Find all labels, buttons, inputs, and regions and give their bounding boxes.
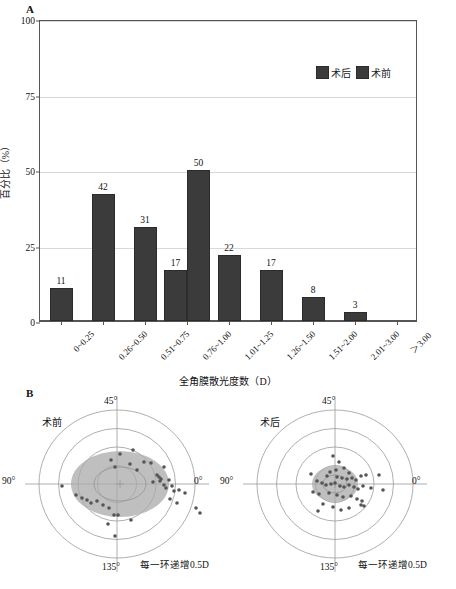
x-tick-mark [145, 321, 146, 325]
scatter-point [158, 479, 162, 483]
scatter-point [129, 518, 133, 522]
scatter-point [339, 508, 343, 512]
y-tick-label: 0 [30, 318, 35, 328]
legend-swatch-post-op [316, 66, 329, 79]
scatter-point [327, 491, 331, 495]
scatter-point [355, 497, 359, 501]
scatter-point [334, 468, 338, 472]
bar-value-label: 50 [194, 158, 204, 168]
scatter-point [113, 465, 117, 469]
scatter-point [85, 498, 89, 502]
bar-value-label: 17 [171, 258, 181, 268]
bar [92, 194, 115, 321]
scatter-point [151, 480, 155, 484]
bar [134, 227, 157, 321]
x-tick-mark [61, 321, 62, 325]
scatter-point [175, 501, 179, 505]
legend-swatch-pre-op [356, 66, 369, 79]
scatter-point [109, 458, 113, 462]
bar-chart-plot-area: 0255075100 1142311750221783 术后 术前 [39, 20, 417, 322]
bar [260, 270, 283, 321]
scatter-point [335, 475, 339, 479]
scatter-point [198, 511, 202, 515]
scatter-point [309, 472, 313, 476]
scatter-point [324, 483, 328, 487]
scatter-point [316, 509, 320, 513]
scatter-point [113, 534, 117, 538]
scatter-point [112, 513, 116, 517]
bar [218, 255, 241, 321]
polar-post-op-title: 术后 [260, 414, 280, 429]
scatter-point [320, 481, 324, 485]
x-tick-mark [313, 321, 314, 325]
scatter-point [315, 479, 319, 483]
scatter-point [335, 493, 339, 497]
scatter-point [342, 466, 346, 470]
polar-pre-angle-0: 0° [194, 476, 203, 486]
polar-plot-pre-op: 术前 45° 90° 0° 135° 每一环递增0.5D [22, 396, 212, 576]
x-tick-mark [187, 321, 188, 325]
scatter-point [95, 499, 99, 503]
polar-pre-ring-note: 每一环递增0.5D [140, 557, 209, 571]
scatter-point [360, 499, 364, 503]
scatter-point [347, 506, 351, 510]
legend-label-post-op: 术后 [331, 65, 351, 80]
x-axis-category-label: ＞3.00 [407, 329, 434, 356]
panel-a-letter: A [26, 3, 34, 15]
x-axis-category-label: 0.51~0.75 [159, 329, 192, 362]
polar-post-angle-45: 45° [322, 396, 335, 406]
y-tick-label: 50 [26, 167, 36, 177]
scatter-point [340, 476, 344, 480]
scatter-point [162, 483, 166, 487]
scatter-point [107, 506, 111, 510]
scatter-point [325, 474, 329, 478]
scatter-point [364, 473, 368, 477]
scatter-point [194, 506, 198, 510]
bar-value-label: 17 [266, 258, 276, 268]
scatter-point [347, 483, 351, 487]
scatter-point [101, 503, 105, 507]
scatter-point [337, 460, 341, 464]
polar-plot-post-op: 术后 45° 90° 0° 135° 每一环递增0.5D [240, 396, 430, 576]
scatter-point [80, 496, 84, 500]
scatter-point [377, 473, 381, 477]
scatter-point [60, 484, 64, 488]
scatter-point [331, 454, 335, 458]
scatter-point [170, 484, 174, 488]
x-tick-mark [103, 321, 104, 325]
x-axis-category-label: 0~0.25 [71, 329, 96, 354]
polar-post-angle-0: 0° [412, 476, 421, 486]
scatter-point [135, 468, 139, 472]
scatter-point [74, 493, 78, 497]
y-tick-label: 100 [21, 16, 35, 26]
scatter-point [172, 489, 176, 493]
scatter-point [354, 478, 358, 482]
scatter-point [183, 491, 187, 495]
y-tick-label: 25 [26, 243, 36, 253]
polar-pre-angle-135: 135° [102, 562, 120, 572]
scatter-point [142, 460, 146, 464]
bar [187, 170, 210, 321]
panel-a-bar-chart: A 百分比（%） 0255075100 1142311750221783 术后 … [0, 0, 456, 392]
bar-value-label: 22 [224, 243, 234, 253]
panel-b-polar-plots: B 术前 45° 90° 0° 135° 每一环递增0.5D 术后 45° 90… [0, 382, 456, 589]
x-tick-mark [355, 321, 356, 325]
y-axis-title: 百分比（%） [0, 141, 12, 199]
scatter-point [89, 501, 93, 505]
x-tick-mark [271, 321, 272, 325]
bar-value-label: 11 [56, 276, 65, 286]
scatter-point [317, 492, 321, 496]
polar-post-angle-90: 90° [220, 476, 233, 486]
bar [302, 297, 325, 321]
chart-legend: 术后 术前 [316, 65, 394, 80]
scatter-point [162, 465, 166, 469]
scatter-point [350, 476, 354, 480]
scatter-point [341, 495, 345, 499]
scatter-point [347, 471, 351, 475]
scatter-point [167, 478, 171, 482]
bar-value-label: 3 [353, 300, 358, 310]
scatter-point [342, 485, 346, 489]
scatter-point [361, 484, 365, 488]
scatter-point [321, 502, 325, 506]
polar-pre-angle-90: 90° [2, 476, 15, 486]
